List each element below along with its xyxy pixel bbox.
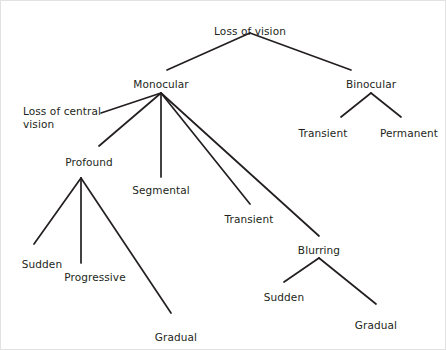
node-label-progressive: Progressive (64, 271, 126, 284)
node-label-profound: Profound (65, 156, 113, 169)
node-label-sudden-blurring: Sudden (264, 291, 304, 304)
edge-binocular-to-transient-binocular (341, 93, 371, 117)
edge-monocular-to-profound (99, 93, 161, 146)
node-label-segmental: Segmental (132, 184, 190, 197)
edge-loss-of-vision-to-binocular (250, 33, 351, 70)
node-label-sudden-profound: Sudden (22, 258, 62, 271)
edge-binocular-to-permanent (371, 93, 401, 117)
edge-blurring-to-sudden-blurring (284, 258, 319, 282)
edge-profound-to-sudden-profound (34, 178, 81, 244)
node-label-permanent: Permanent (380, 127, 438, 140)
node-label-binocular: Binocular (346, 78, 396, 91)
node-label-gradual-profound: Gradual (155, 331, 197, 344)
node-label-gradual-blurring: Gradual (355, 319, 397, 332)
edge-profound-to-gradual-profound (81, 178, 171, 313)
node-label-loss-of-vision: Loss of vision (214, 25, 286, 38)
node-label-transient-monocular: Transient (225, 213, 274, 226)
node-label-blurring: Blurring (298, 244, 340, 257)
edge-loss-of-vision-to-monocular (167, 33, 250, 70)
node-label-loss-of-central-vision: Loss of central vision (23, 105, 101, 131)
node-label-monocular: Monocular (133, 78, 189, 91)
node-label-transient-binocular: Transient (299, 127, 348, 140)
edge-monocular-to-loss-of-central-vision (101, 93, 161, 113)
tree-edges (1, 1, 446, 350)
diagram-canvas: Loss of visionMonocularBinocularTransien… (0, 0, 446, 350)
edge-blurring-to-gradual-blurring (319, 258, 376, 304)
